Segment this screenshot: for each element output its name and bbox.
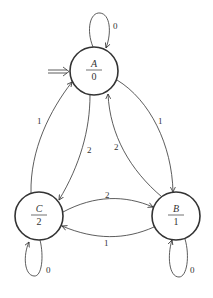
svg-text:0: 0 [190, 265, 195, 275]
svg-text:1: 1 [37, 116, 42, 126]
state-b-name: B [173, 203, 179, 214]
edge-b-a: 2 [108, 94, 162, 197]
edge-a-c: 2 [59, 95, 92, 200]
svg-text:2: 2 [105, 190, 110, 200]
state-c-name: C [36, 203, 43, 214]
svg-text:0: 0 [113, 21, 118, 31]
state-a-output: 0 [92, 71, 97, 82]
state-node-c: C 2 [15, 192, 63, 240]
state-a-name: A [90, 58, 98, 69]
state-node-b: B 1 [152, 192, 200, 240]
edge-a-a: 0 [89, 13, 118, 48]
svg-text:1: 1 [158, 116, 163, 126]
edge-b-b: 0 [169, 239, 195, 277]
start-arrow [48, 67, 69, 76]
svg-text:0: 0 [46, 265, 51, 275]
edge-a-b: 1 [117, 80, 173, 192]
edge-c-c: 0 [25, 240, 51, 276]
edge-c-b: 2 [63, 190, 153, 212]
svg-text:2: 2 [114, 142, 119, 152]
edge-c-a: 1 [31, 82, 72, 193]
svg-text:2: 2 [87, 145, 92, 155]
state-c-output: 2 [37, 216, 42, 227]
edge-b-c: 1 [62, 226, 154, 248]
svg-text:1: 1 [104, 238, 109, 248]
state-b-output: 1 [174, 216, 179, 227]
state-diagram: A 0 C 2 B 1 0 1 2 2 1 [0, 0, 213, 298]
state-node-a: A 0 [70, 47, 118, 95]
